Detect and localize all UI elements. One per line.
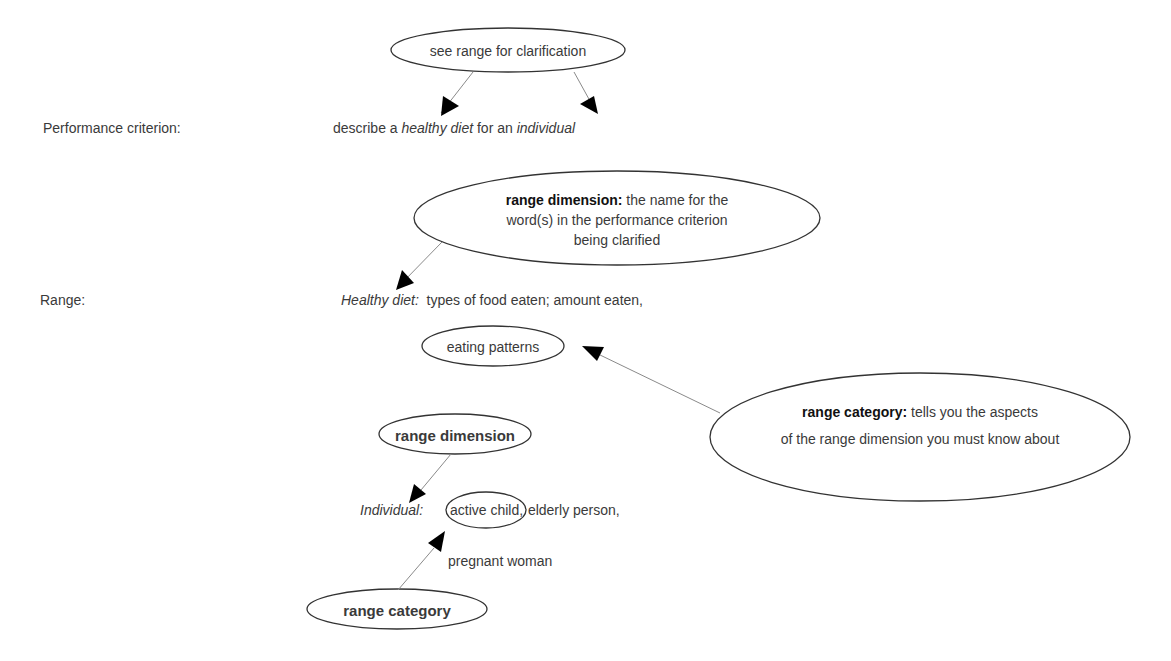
see-range-text: see range for clarification: [391, 42, 625, 61]
range-category-def-line1: range category: tells you the aspects: [712, 399, 1128, 426]
healthy-diet-values: types of food eaten; amount eaten,: [419, 292, 643, 308]
arrowhead-icon: [582, 346, 604, 361]
arrowhead-icon: [428, 531, 445, 552]
range-category-label-text: range category: [307, 601, 487, 621]
eating-patterns-text: eating patterns: [422, 338, 564, 357]
range-category-definition: range category: tells you the aspects of…: [712, 399, 1128, 453]
range-label: Range:: [40, 293, 85, 307]
range-dimension-def-line3: being clarified: [417, 230, 817, 250]
healthy-diet-range: Healthy diet: types of food eaten; amoun…: [341, 293, 643, 307]
individual-range: Individual:: [360, 503, 423, 517]
performance-criterion-label: Performance criterion:: [43, 121, 181, 135]
range-dimension-definition: range dimension: the name for the word(s…: [417, 190, 817, 250]
range-dimension-def-line1: range dimension: the name for the: [417, 190, 817, 210]
range-dimension-def-line2: word(s) in the performance criterion: [417, 210, 817, 230]
range-category-def-bold: range category:: [802, 404, 907, 420]
criterion-prefix: describe a: [333, 120, 401, 136]
arrowhead-icon: [441, 96, 459, 116]
active-child-text: active child,: [450, 503, 523, 517]
range-category-def-line1-rest: tells you the aspects: [907, 404, 1038, 420]
arrow-to-active-child: [398, 548, 434, 590]
diagram-canvas: [0, 0, 1171, 661]
range-category-def-line2: of the range dimension you must know abo…: [712, 426, 1128, 453]
criterion-term-individual: individual: [517, 120, 575, 136]
range-dimension-def-bold: range dimension:: [506, 192, 623, 208]
individual-after-circle: elderly person,: [524, 503, 620, 517]
individual-label: Individual:: [360, 502, 423, 518]
performance-criterion-sentence: describe a healthy diet for an individua…: [333, 121, 575, 135]
criterion-middle: for an: [473, 120, 517, 136]
healthy-diet-label: Healthy diet:: [341, 292, 419, 308]
arrow-to-eating-patterns: [598, 354, 720, 413]
criterion-term-healthy-diet: healthy diet: [401, 120, 473, 136]
range-dimension-def-line1-rest: the name for the: [622, 192, 728, 208]
arrow-to-individual-label: [416, 454, 451, 496]
range-dimension-label-text: range dimension: [379, 426, 531, 446]
individual-line2: pregnant woman: [448, 554, 552, 568]
